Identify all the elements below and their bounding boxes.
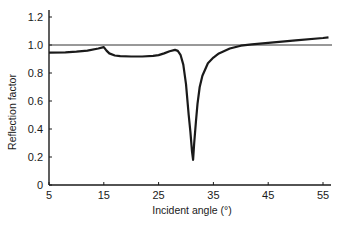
y-tick-label: 1.0 [28,39,43,51]
y-tick-label: 0.2 [28,151,43,163]
y-tick-label: 0.4 [28,123,43,135]
x-tick-label: 25 [152,189,164,201]
x-tick-label: 45 [262,189,274,201]
x-tick-label: 55 [317,189,329,201]
y-axis: 00.20.40.60.81.01.2 [28,10,52,191]
x-tick-label: 35 [207,189,219,201]
x-axis-label: Incident angle (°) [152,204,232,216]
y-tick-label: 1.2 [28,11,43,23]
reflection-factor-chart: 00.20.40.60.81.01.2 51525354555 Incident… [0,0,344,228]
y-tick-label: 0 [37,179,43,191]
reflection-curve [49,37,329,160]
x-axis: 51525354555 [46,182,331,201]
y-tick-label: 0.6 [28,95,43,107]
x-tick-label: 15 [98,189,110,201]
y-axis-label: Reflection factor [6,74,18,150]
y-tick-label: 0.8 [28,67,43,79]
x-tick-label: 5 [46,189,52,201]
